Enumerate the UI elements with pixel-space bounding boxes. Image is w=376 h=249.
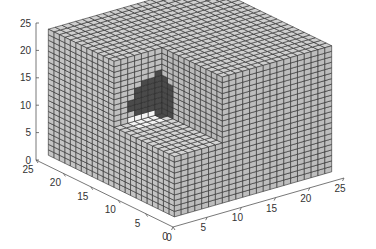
- volume-slice-plot: 051015202505101520250510152025: [0, 0, 376, 249]
- z-tick-label: 10: [20, 100, 32, 111]
- y-tick-label: 0: [162, 231, 168, 242]
- z-tick-label: 25: [20, 18, 32, 29]
- z-tick-label: 20: [20, 45, 32, 56]
- x-tick: [172, 227, 174, 230]
- x-tick-label: 20: [300, 193, 312, 204]
- y-tick-label: 5: [135, 218, 141, 229]
- y-tick: [173, 227, 175, 230]
- y-tick-label: 15: [77, 191, 89, 202]
- y-tick-label: 25: [22, 164, 34, 175]
- z-tick-label: 5: [25, 127, 31, 138]
- volume-faces: [48, 0, 331, 217]
- x-tick-label: 10: [232, 212, 244, 223]
- x-tick-label: 25: [334, 183, 346, 194]
- z-tick-label: 15: [20, 72, 32, 83]
- x-tick-label: 15: [266, 203, 278, 214]
- z-tick-label: 0: [25, 155, 31, 166]
- y-tick-label: 20: [50, 177, 62, 188]
- x-tick-label: 5: [200, 222, 206, 233]
- y-tick-label: 10: [105, 204, 117, 215]
